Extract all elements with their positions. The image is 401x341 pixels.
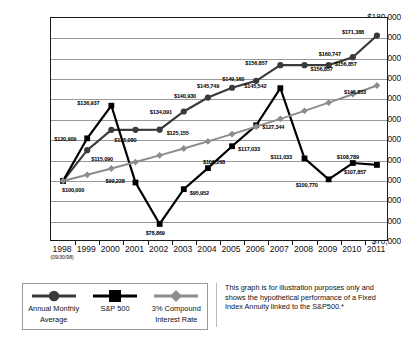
chart-legend: Annual MonthlyAverageS&P 5003% CompoundI… <box>22 283 208 330</box>
data-point-label: $149,160 <box>222 76 244 82</box>
x-tick-label: 2007 <box>270 244 289 254</box>
data-point-label: $146,853 <box>344 89 366 95</box>
data-point-marker <box>108 127 114 133</box>
x-tick-label: 2010 <box>342 244 361 254</box>
legend-item-0[interactable]: Annual MonthlyAverage <box>23 289 84 324</box>
data-point-label: $106,268 <box>203 159 225 165</box>
data-point-marker <box>205 165 211 171</box>
data-point-label: $160,747 <box>319 51 341 57</box>
x-tick-label: 2009 <box>318 244 337 254</box>
legend-item-2[interactable]: 3% CompoundInterest Rate <box>146 289 207 324</box>
data-point-marker <box>157 221 163 227</box>
data-point-marker <box>205 94 211 100</box>
data-point-marker <box>229 131 236 138</box>
data-point-label: $156,857 <box>245 60 267 66</box>
data-point-label: $120,909 <box>54 136 76 142</box>
data-point-marker <box>350 54 356 60</box>
data-point-label: $145,542 <box>244 83 266 89</box>
x-tick-label: 2004 <box>197 244 216 254</box>
data-point-label: $78,869 <box>146 230 165 236</box>
x-tick-label: 2003 <box>173 244 192 254</box>
data-point-label: $156,857 <box>311 66 333 72</box>
chart-container: $70,000$80,000$90,000$100,000$110,000$12… <box>0 0 401 270</box>
data-point-label: $136,937 <box>77 100 99 106</box>
x-tick-label: 1998 <box>53 244 72 254</box>
data-point-marker <box>350 160 356 166</box>
plot-area: $100,000$115,090$125,080$125,155$134,091… <box>50 17 388 241</box>
data-point-marker <box>132 127 138 133</box>
data-point-marker <box>277 62 283 68</box>
data-point-marker <box>205 138 212 145</box>
legend-item-1[interactable]: S&P 500 <box>84 289 145 314</box>
x-tick-label: 2008 <box>294 244 313 254</box>
data-point-marker <box>133 180 139 186</box>
data-point-marker <box>326 176 332 182</box>
data-point-label: $117,033 <box>238 146 260 152</box>
legend-label: Annual Monthly <box>23 304 84 314</box>
x-tick-label: 2001 <box>125 244 144 254</box>
data-point-marker <box>374 82 381 89</box>
data-point-marker <box>84 171 91 178</box>
data-point-label: $156,857 <box>335 61 357 67</box>
data-point-label: $99,228 <box>106 178 125 184</box>
legend-label: S&P 500 <box>84 304 145 314</box>
data-point-label: $111,033 <box>271 154 293 160</box>
caption-divider <box>216 283 217 327</box>
data-point-label: $100,770 <box>296 182 318 188</box>
data-point-label: $115,090 <box>91 156 113 162</box>
data-point-marker <box>301 107 308 114</box>
x-axis-subnote: (09/30/98) <box>50 254 73 260</box>
data-point-label: $100,000 <box>62 187 84 193</box>
data-point-marker <box>301 62 307 68</box>
data-point-marker <box>181 186 187 192</box>
legend-label-line2: Average <box>23 315 84 325</box>
data-point-marker <box>108 103 114 109</box>
data-point-label: $125,080 <box>114 137 136 143</box>
data-point-marker <box>277 85 283 91</box>
chart-page: $70,000$80,000$90,000$100,000$110,000$12… <box>0 0 401 341</box>
data-point-label: $134,091 <box>150 109 172 115</box>
data-point-marker <box>229 143 235 149</box>
data-point-marker <box>180 145 187 152</box>
legend-label-line2: Interest Rate <box>146 315 207 325</box>
x-tick-label: 2002 <box>149 244 168 254</box>
data-point-label: $95,952 <box>190 190 209 196</box>
data-point-marker <box>277 115 284 122</box>
data-point-marker <box>302 156 308 162</box>
legend-label: 3% Compound <box>146 304 207 314</box>
diamond-marker-icon <box>146 289 207 303</box>
data-point-marker <box>132 159 139 166</box>
square-marker-icon <box>84 289 145 303</box>
data-point-label: $125,155 <box>167 130 189 136</box>
data-point-marker <box>374 162 380 168</box>
data-point-label: $127,344 <box>262 124 284 130</box>
data-point-marker <box>156 152 163 159</box>
data-point-label: $140,930 <box>174 93 196 99</box>
data-point-marker <box>229 85 235 91</box>
data-point-label: $145,749 <box>197 83 219 89</box>
data-point-marker <box>181 108 187 114</box>
x-tick-label: 2006 <box>246 244 265 254</box>
data-point-marker <box>374 32 380 38</box>
data-point-label: $107,857 <box>344 169 366 175</box>
x-tick-label: 2005 <box>222 244 241 254</box>
x-tick-label: 1999 <box>77 244 96 254</box>
circle-marker-icon <box>23 289 84 303</box>
chart-caption: This graph is for illustration purposes … <box>225 283 393 312</box>
data-point-marker <box>84 147 90 153</box>
x-tick-label: 2000 <box>101 244 120 254</box>
x-tick-label: 2011 <box>367 244 385 254</box>
data-point-marker <box>108 165 115 172</box>
data-point-label: $171,388 <box>342 29 364 35</box>
data-point-marker <box>157 127 163 133</box>
data-point-marker <box>325 99 332 106</box>
data-point-label: $108,789 <box>337 154 359 160</box>
data-point-marker <box>84 135 90 141</box>
